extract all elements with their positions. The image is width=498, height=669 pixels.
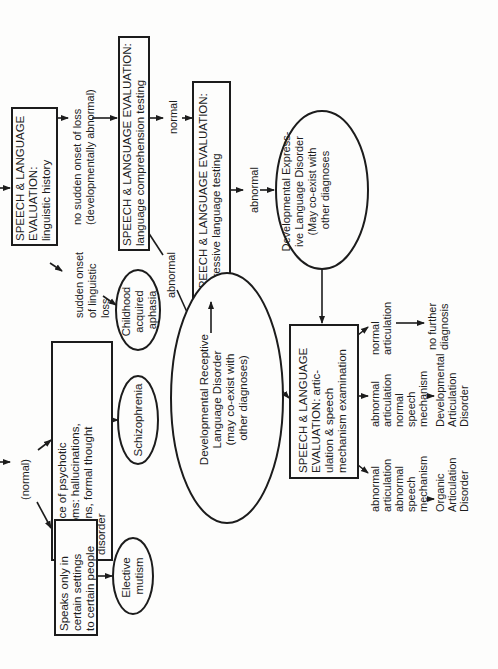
label-oad-line-3: Disorder bbox=[458, 470, 470, 512]
edge-articulation-to-normal-art bbox=[358, 327, 368, 335]
node-childhood-acquired-aphasia: Childhood acquired aphasia bbox=[116, 270, 160, 350]
articulation-line-1: SPEECH & LANGUAGE bbox=[297, 347, 309, 473]
label-sudden-onset: sudden onset of linguistic loss bbox=[73, 249, 111, 318]
node-articulation-examination: SPEECH & LANGUAGE EVALUATION: artic- ula… bbox=[290, 325, 358, 478]
aphasia-line-3: aphasia bbox=[146, 290, 158, 329]
edge-comprehension-to-abnormal bbox=[148, 232, 163, 255]
schizophrenia-line-1: Schizophrenia bbox=[132, 383, 144, 456]
receptive-line-1: Developmental Receptive bbox=[198, 334, 210, 465]
expressive-disorder-line-3: (May co-exist with bbox=[306, 148, 318, 236]
label-normal-1-text: normal bbox=[167, 100, 179, 134]
linguistic-history-line-2: EVALUATION: bbox=[27, 167, 39, 241]
articulation-line-3: ulation & speech bbox=[323, 388, 335, 473]
label-aanm-line-1: abnormal bbox=[369, 381, 381, 427]
expressive-disorder-line-4: other diagnoses bbox=[319, 150, 331, 229]
edge-history-to-sudden bbox=[50, 263, 62, 271]
speech-language-flowchart: SPEECH & LANGUAGE EVALUATION: linguistic… bbox=[0, 0, 498, 669]
node-speaks-only: Speaks only in certain settings to certa… bbox=[55, 520, 97, 635]
label-oad-line-2: Articulation bbox=[446, 458, 458, 512]
label-dad-line-1: Developmental bbox=[434, 354, 446, 427]
receptive-line-2: Language Disorder bbox=[211, 351, 223, 449]
receptive-line-3: (may co-exist with bbox=[224, 354, 236, 446]
node-language-comprehension: SPEECH & LANGUAGE EVALUATION: language c… bbox=[119, 37, 149, 250]
label-dad-line-2: Articulation bbox=[446, 373, 458, 427]
label-normal-paren: (normal) bbox=[19, 459, 31, 500]
articulation-line-2: EVALUATION: artic- bbox=[310, 370, 322, 473]
speaks-only-line-1: Speaks only in bbox=[58, 556, 70, 631]
label-sudden-onset-line-1: sudden onset bbox=[73, 252, 85, 318]
expressive-disorder-line-1: Developmental Express- bbox=[280, 131, 292, 251]
aphasia-line-2: acquired bbox=[133, 290, 145, 332]
node-receptive-language-disorder: Developmental Receptive Language Disorde… bbox=[171, 273, 283, 523]
label-normal-articulation: normal articulation bbox=[369, 302, 393, 355]
node-linguistic-history: SPEECH & LANGUAGE EVALUATION: linguistic… bbox=[12, 108, 57, 245]
label-aanm-line-4: speech bbox=[405, 392, 417, 427]
speaks-only-line-2: certain settings bbox=[71, 553, 83, 631]
comprehension-line-2: language comprehension testing bbox=[134, 80, 146, 246]
label-no-sudden-onset-line-1: no sudden onset of loss bbox=[71, 108, 83, 225]
label-no-sudden-onset: no sudden onset of loss (developmentally… bbox=[71, 89, 96, 225]
expressive-disorder-line-2: ive Language Disorder bbox=[293, 136, 305, 247]
label-abnormal-2-text: abnormal bbox=[165, 252, 177, 298]
label-aaam-line-1: abnormal bbox=[369, 466, 381, 512]
linguistic-history-line-1: SPEECH & LANGUAGE bbox=[14, 115, 26, 241]
svg-text:Childhood acquired: Childhood acquired aphasia bbox=[120, 284, 158, 337]
svg-text:Speaks only in certain s: Speaks only in certain settings to certa… bbox=[58, 546, 96, 631]
elective-mutism-line-2: mutism bbox=[133, 557, 145, 594]
label-sudden-onset-line-2: of linguistic bbox=[86, 263, 98, 318]
label-aanm-line-2: articulation bbox=[381, 374, 393, 427]
node-expressive-language-disorder: Developmental Express- ive Language Diso… bbox=[276, 111, 368, 269]
label-sudden-onset-line-3: loss bbox=[99, 298, 111, 318]
edge-normal-to-psychotic bbox=[38, 440, 51, 450]
label-normal-articulation-line-1: normal bbox=[369, 321, 381, 355]
receptive-line-4: other diagnoses) bbox=[237, 355, 249, 441]
label-dad-line-3: Disorder bbox=[458, 385, 470, 427]
label-aanm-line-3: normal bbox=[393, 393, 405, 427]
label-no-further-line-1: no further bbox=[426, 303, 438, 350]
articulation-line-4: mechanism examination bbox=[336, 349, 348, 473]
label-abnormal-receptive: abnormal bbox=[165, 252, 177, 298]
label-normal-paren-text: (normal) bbox=[19, 459, 31, 500]
label-normal-1: normal bbox=[167, 100, 179, 134]
edge-articulation-to-abn-abn bbox=[358, 465, 368, 473]
label-aanm-line-5: mechanism bbox=[417, 371, 429, 427]
label-aaam-line-4: speech bbox=[405, 477, 417, 512]
svg-text:Elective mutism: Elective mutism bbox=[120, 554, 145, 597]
expressive-line-1: SPEECH & LANGUAGE EVALUATION: bbox=[197, 93, 209, 296]
svg-text:Schizophrenia: Schizophrenia bbox=[132, 383, 144, 456]
node-schizophrenia: Schizophrenia bbox=[118, 376, 158, 464]
aphasia-line-1: Childhood bbox=[120, 287, 132, 337]
label-abnormal-1-text: abnormal bbox=[248, 167, 260, 213]
label-abnormal-expressive: abnormal bbox=[248, 167, 260, 213]
label-no-sudden-onset-line-2: (developmentally abnormal) bbox=[84, 89, 96, 225]
comprehension-line-1: SPEECH & LANGUAGE EVALUATION: bbox=[121, 43, 133, 246]
label-aaam-line-3: abnormal bbox=[393, 466, 405, 512]
label-abnormal-art-abnormal-mech: abnormal articulation abnormal speech me… bbox=[369, 456, 429, 512]
label-no-further-diagnosis: no further diagnosis bbox=[426, 300, 450, 350]
node-expressive-language: SPEECH & LANGUAGE EVALUATION: expressive… bbox=[193, 82, 230, 300]
label-normal-articulation-line-2: articulation bbox=[381, 302, 393, 355]
elective-mutism-line-1: Elective bbox=[120, 557, 132, 597]
label-oad-line-1: Organic bbox=[434, 473, 446, 512]
label-aaam-line-5: mechanism bbox=[417, 456, 429, 512]
speaks-only-line-3: to certain people bbox=[84, 546, 96, 631]
edge-normal-to-speaks-only bbox=[37, 502, 51, 528]
label-abnormal-art-normal-mech: abnormal articulation normal speech mech… bbox=[369, 371, 429, 427]
label-no-further-line-2: diagnosis bbox=[438, 303, 450, 350]
label-organic-articulation-disorder: Organic Articulation Disorder bbox=[434, 455, 470, 512]
node-elective-mutism: Elective mutism bbox=[113, 538, 153, 614]
label-aaam-line-2: articulation bbox=[381, 459, 393, 512]
label-developmental-articulation-disorder: Developmental Articulation Disorder bbox=[434, 351, 470, 427]
linguistic-history-line-3: linguistic history bbox=[40, 160, 52, 241]
